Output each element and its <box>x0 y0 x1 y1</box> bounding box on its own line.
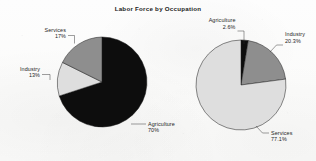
right-label-agriculture-value: 2.6% <box>223 24 236 30</box>
chart-page: Labor Force by Occupation Services 17% I… <box>0 0 316 161</box>
left-leader-industry <box>42 75 50 81</box>
right-pie-chart: Agriculture 2.6% Industry 20.3% Services… <box>196 17 305 142</box>
right-slice-industry[interactable] <box>241 41 286 85</box>
left-pie-chart: Services 17% Industry 13% Agriculture 70… <box>20 27 175 134</box>
left-label-services-name: Services <box>45 27 67 33</box>
right-label-industry-value: 20.3% <box>285 38 301 44</box>
right-label-services-value: 77.1% <box>271 136 287 142</box>
right-label-industry-name: Industry <box>285 31 305 37</box>
left-label-agriculture-name: Agriculture <box>148 121 175 127</box>
left-label-agriculture-value: 70% <box>148 127 159 133</box>
left-label-industry-name: Industry <box>20 66 40 72</box>
left-label-services-value: 17% <box>55 33 66 39</box>
left-leader-services <box>68 36 75 44</box>
right-leader-industry <box>270 45 283 52</box>
right-label-agriculture-name: Agriculture <box>209 17 236 23</box>
left-label-industry-value: 13% <box>29 72 40 78</box>
right-label-services-name: Services <box>271 130 293 136</box>
pie-charts-figure: Services 17% Industry 13% Agriculture 70… <box>0 0 316 161</box>
